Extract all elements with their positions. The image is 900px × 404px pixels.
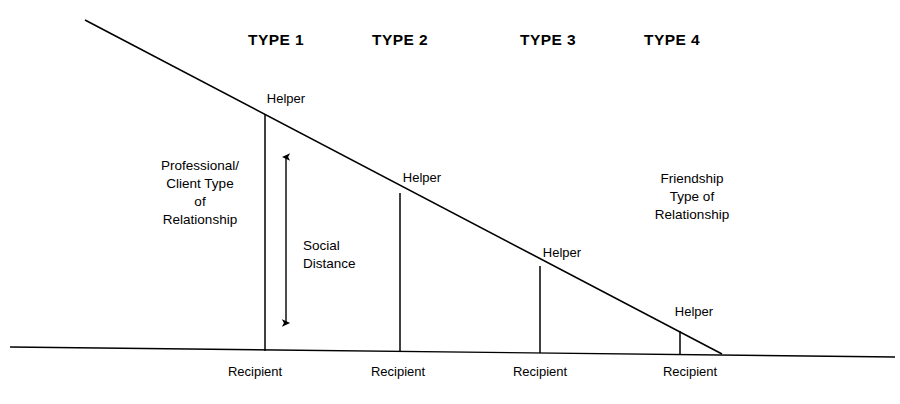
friendship-relationship-label: Friendship Type of Relationship <box>655 170 729 224</box>
type-header-3: TYPE 3 <box>520 30 576 50</box>
social-distance-label: Social Distance <box>303 237 356 273</box>
diagram-canvas: TYPE 1 TYPE 2 TYPE 3 TYPE 4 Helper Helpe… <box>0 0 900 404</box>
type-header-2: TYPE 2 <box>372 30 428 50</box>
type-header-1: TYPE 1 <box>248 30 304 50</box>
recipient-label-2: Recipient <box>371 364 425 381</box>
helper-label-4: Helper <box>675 304 713 321</box>
helper-label-2: Helper <box>403 170 441 187</box>
helper-label-3: Helper <box>543 245 581 262</box>
diagram-vector-layer <box>0 0 900 404</box>
professional-client-relationship-label: Professional/ Client Type of Relationshi… <box>161 157 239 229</box>
recipient-label-4: Recipient <box>663 364 717 381</box>
type-header-4: TYPE 4 <box>644 30 700 50</box>
recipient-label-3: Recipient <box>513 364 567 381</box>
recipient-baseline <box>10 347 895 357</box>
helper-label-1: Helper <box>267 91 305 108</box>
recipient-label-1: Recipient <box>228 364 282 381</box>
